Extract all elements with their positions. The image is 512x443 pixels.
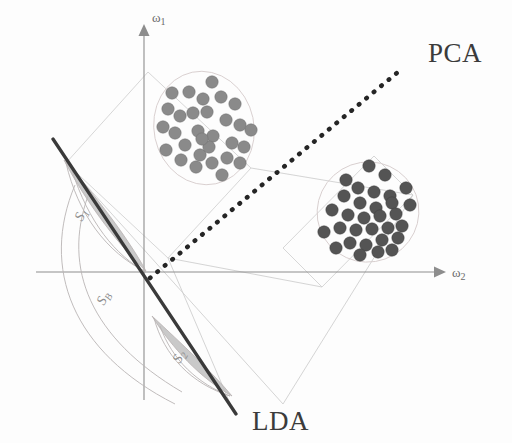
data-point bbox=[206, 76, 218, 88]
data-point bbox=[160, 144, 172, 156]
data-point bbox=[354, 249, 366, 261]
data-point bbox=[216, 169, 228, 181]
data-point bbox=[376, 234, 388, 246]
data-point bbox=[366, 223, 378, 235]
x-axis-arrowhead bbox=[434, 267, 446, 278]
data-point bbox=[344, 237, 356, 249]
data-point bbox=[196, 133, 208, 145]
data-point bbox=[174, 110, 186, 122]
between-scatter-label: SB bbox=[93, 289, 114, 309]
data-point bbox=[350, 224, 362, 236]
sb-arc-inner bbox=[79, 196, 182, 392]
data-point bbox=[234, 119, 246, 131]
data-point bbox=[318, 226, 330, 238]
y-axis-label: ω1 bbox=[152, 10, 166, 27]
data-point bbox=[187, 107, 199, 119]
pca-lda-diagram: PCA LDA ω1 ω2 S1 S2 SB bbox=[0, 0, 512, 443]
x-axis-label-sub: 2 bbox=[461, 271, 466, 282]
data-point bbox=[190, 161, 202, 173]
data-point bbox=[215, 91, 227, 103]
data-point bbox=[386, 244, 398, 256]
data-point bbox=[372, 246, 384, 258]
data-point bbox=[179, 139, 191, 151]
data-point bbox=[334, 222, 346, 234]
cluster-b-points bbox=[318, 160, 416, 261]
within-scatter-1-label: S1 bbox=[71, 206, 92, 225]
lda-label: LDA bbox=[252, 406, 309, 436]
data-point bbox=[183, 86, 195, 98]
data-point bbox=[386, 197, 398, 209]
data-point bbox=[338, 190, 350, 202]
figure-root: PCA LDA ω1 ω2 S1 S2 SB bbox=[0, 0, 512, 443]
data-point bbox=[368, 186, 380, 198]
data-point bbox=[166, 87, 178, 99]
y-axis-label-sub: 1 bbox=[161, 16, 166, 27]
data-point bbox=[162, 103, 174, 115]
data-point bbox=[363, 160, 375, 172]
data-point bbox=[326, 204, 338, 216]
data-point bbox=[400, 182, 412, 194]
data-point bbox=[382, 222, 394, 234]
data-point bbox=[157, 121, 169, 133]
data-point bbox=[340, 174, 352, 186]
y-axis-arrowhead bbox=[139, 24, 150, 36]
data-point bbox=[169, 127, 181, 139]
data-point bbox=[352, 182, 364, 194]
data-point bbox=[175, 154, 187, 166]
data-point bbox=[206, 157, 218, 169]
data-point bbox=[390, 208, 402, 220]
data-point bbox=[342, 209, 354, 221]
pca-label: PCA bbox=[428, 38, 482, 68]
data-point bbox=[207, 130, 219, 142]
data-point bbox=[201, 106, 213, 118]
cluster-a-points bbox=[157, 76, 257, 181]
data-point bbox=[234, 157, 246, 169]
data-point bbox=[221, 152, 233, 164]
data-point bbox=[404, 199, 416, 211]
data-point bbox=[358, 212, 370, 224]
x-axis-label: ω2 bbox=[452, 265, 466, 282]
data-point bbox=[245, 124, 257, 136]
data-point bbox=[220, 114, 232, 126]
lens-shape-s2 bbox=[152, 316, 232, 396]
data-point bbox=[392, 232, 404, 244]
guide-rail-left bbox=[66, 163, 283, 404]
data-point bbox=[226, 137, 238, 149]
data-point bbox=[238, 141, 250, 153]
data-point bbox=[330, 242, 342, 254]
within-class-scatter-2 bbox=[152, 316, 232, 396]
data-point bbox=[379, 169, 391, 181]
data-point bbox=[229, 98, 241, 110]
data-point bbox=[396, 220, 408, 232]
data-point bbox=[197, 93, 209, 105]
data-point bbox=[354, 197, 366, 209]
data-point bbox=[374, 210, 386, 222]
